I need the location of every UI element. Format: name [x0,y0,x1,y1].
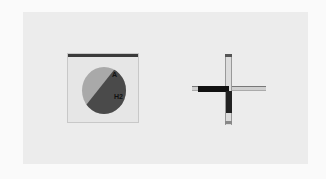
dial-circle-icon: A H2 [82,67,126,114]
cross-indicator-icon [192,54,266,125]
cross-vertical-top-cap [225,54,232,57]
dial-label-bottom: H2 [114,93,123,100]
cross-horizontal-dark-segment [198,86,229,92]
dial-dark-half [82,67,126,114]
dial-indicator: A H2 [67,53,139,123]
cross-vertical-dark-segment [226,91,232,113]
dial-label-top: A [112,71,117,78]
indicator-top-bar [68,54,138,57]
cross-vertical-bottom-cap [225,121,232,124]
